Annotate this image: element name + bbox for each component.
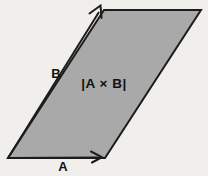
vector-b-label: B [51, 66, 60, 81]
area-label: |A × B| [81, 76, 126, 91]
diagram-stage: B A |A × B| [0, 0, 208, 176]
vector-a-line [8, 158, 100, 159]
vector-a-label: A [58, 159, 68, 174]
cross-product-diagram: B A |A × B| [0, 0, 208, 176]
